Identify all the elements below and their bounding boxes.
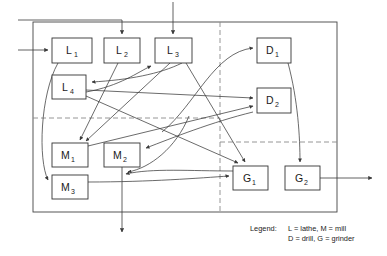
machine-box-L4[interactable]: L 4 xyxy=(52,75,86,99)
machine-label-M2: M xyxy=(113,149,122,161)
machine-box-M1[interactable]: M 1 xyxy=(52,143,88,167)
machine-sub-M1: 1 xyxy=(71,156,75,163)
machine-sub-L1: 1 xyxy=(74,51,78,58)
machine-label-M1: M xyxy=(61,149,70,161)
flow-L4-to-D2 xyxy=(86,90,253,98)
machine-box-M2[interactable]: M 2 xyxy=(104,143,140,167)
machine-sub-D1: 1 xyxy=(275,51,279,58)
machine-label-L1: L xyxy=(66,44,72,56)
machine-box-L1[interactable]: L 1 xyxy=(52,38,92,63)
machine-box-G2[interactable]: G 2 xyxy=(285,166,320,190)
legend-line-2: D = drill, G = grinder xyxy=(288,234,355,243)
machine-label-L3: L xyxy=(167,44,173,56)
flow-M1-to-D2 xyxy=(88,106,253,146)
machine-sub-M3: 3 xyxy=(71,188,75,195)
flow-D2-to-M2 xyxy=(146,112,253,148)
machine-flow-diagram: L 1 L 2 L 3 L 4 D 1 D 2 M xyxy=(0,0,387,256)
flow-M3-to-G1 xyxy=(88,176,229,182)
machine-sub-M2: 2 xyxy=(123,156,127,163)
machine-box-D1[interactable]: D 1 xyxy=(257,38,291,63)
machine-box-D2[interactable]: D 2 xyxy=(257,88,291,113)
flow-G1-to-M2 xyxy=(126,170,233,174)
machine-label-L2: L xyxy=(116,44,122,56)
machine-label-G2: G xyxy=(295,172,303,184)
flow-L4-to-L3 xyxy=(86,66,151,92)
machine-box-L3[interactable]: L 3 xyxy=(155,38,192,63)
machine-sub-G2: 2 xyxy=(304,179,308,186)
machine-sub-D2: 2 xyxy=(275,101,279,108)
flow-L3-to-L4 xyxy=(92,63,182,82)
machine-label-M3: M xyxy=(61,181,70,193)
machine-label-D2: D xyxy=(266,94,274,106)
flow-L3-to-G1 xyxy=(186,63,245,162)
machine-sub-G1: 1 xyxy=(252,179,256,186)
legend-label: Legend: xyxy=(250,224,277,233)
machine-label-D1: D xyxy=(266,44,274,56)
legend: Legend: L = lathe, M = mill D = drill, G… xyxy=(250,224,355,243)
machine-sub-L4: 4 xyxy=(70,88,74,95)
legend-line-1: L = lathe, M = mill xyxy=(288,224,346,233)
machine-sub-L2: 2 xyxy=(124,51,128,58)
machine-label-G1: G xyxy=(243,172,251,184)
machine-box-G1[interactable]: G 1 xyxy=(233,166,268,190)
machine-box-L2[interactable]: L 2 xyxy=(104,38,140,63)
machine-sub-L3: 3 xyxy=(175,51,179,58)
machine-box-M3[interactable]: M 3 xyxy=(52,175,88,199)
diagram-canvas: L 1 L 2 L 3 L 4 D 1 D 2 M xyxy=(0,0,387,256)
machine-label-L4: L xyxy=(62,81,68,93)
